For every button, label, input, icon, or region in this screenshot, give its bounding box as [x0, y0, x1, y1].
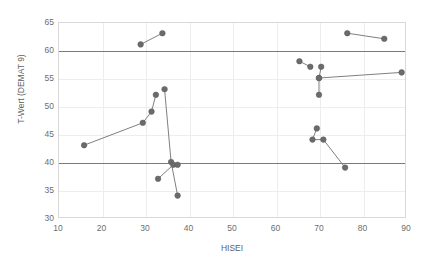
- x-tick-label: 90: [391, 224, 421, 233]
- y-axis-ticks: 3035404550556065: [22, 22, 54, 218]
- y-tick-label: 35: [28, 186, 54, 195]
- connector-segment: [84, 123, 143, 145]
- data-point: [321, 137, 327, 143]
- data-point: [162, 86, 168, 92]
- x-tick-label: 60: [261, 224, 291, 233]
- data-point: [318, 64, 324, 70]
- data-point: [399, 70, 405, 76]
- y-tick-label: 50: [28, 102, 54, 111]
- series-group-5: [297, 58, 313, 69]
- y-tick-label: 65: [28, 18, 54, 27]
- x-tick-label: 40: [174, 224, 204, 233]
- data-point: [316, 92, 322, 98]
- scatter-chart: 3035404550556065 102030405060708090 T-We…: [0, 0, 432, 269]
- series-group-7: [316, 70, 404, 81]
- y-tick-label: 40: [28, 158, 54, 167]
- data-point: [314, 126, 320, 132]
- data-series-layer: [58, 22, 406, 218]
- data-point: [160, 30, 166, 36]
- data-point: [138, 42, 144, 48]
- connector-segment: [347, 33, 384, 39]
- series-group-2: [138, 30, 165, 47]
- data-point: [81, 142, 87, 148]
- data-point: [344, 30, 350, 36]
- x-tick-label: 80: [348, 224, 378, 233]
- data-point: [153, 92, 159, 98]
- data-point: [175, 193, 181, 199]
- x-tick-label: 30: [130, 224, 160, 233]
- x-tick-label: 20: [87, 224, 117, 233]
- y-tick-label: 60: [28, 46, 54, 55]
- series-group-8: [310, 126, 348, 171]
- x-tick-label: 70: [304, 224, 334, 233]
- connector-segment: [141, 33, 163, 44]
- data-point: [381, 36, 387, 42]
- series-group-1: [81, 92, 158, 148]
- data-point: [310, 137, 316, 143]
- y-tick-label: 45: [28, 130, 54, 139]
- x-tick-label: 50: [217, 224, 247, 233]
- connector-segment: [323, 140, 345, 168]
- y-axis-title: T-Wert (DEMAT 9): [16, 34, 26, 144]
- connector-segment: [319, 72, 402, 78]
- data-point: [308, 64, 314, 70]
- data-point: [140, 120, 146, 126]
- data-point: [342, 165, 348, 171]
- data-point: [155, 176, 161, 182]
- x-tick-label: 10: [43, 224, 73, 233]
- data-point: [316, 75, 322, 81]
- data-point: [175, 162, 181, 168]
- series-group-9: [344, 30, 387, 41]
- data-point: [149, 109, 155, 115]
- data-point: [297, 58, 303, 64]
- connector-segment: [165, 89, 172, 162]
- y-tick-label: 30: [28, 214, 54, 223]
- y-tick-label: 55: [28, 74, 54, 83]
- series-group-3: [162, 86, 181, 198]
- x-axis-ticks: 102030405060708090: [58, 224, 406, 238]
- x-axis-title: HISEI: [58, 243, 406, 253]
- connector-segment: [158, 165, 173, 179]
- series-group-4: [155, 162, 180, 182]
